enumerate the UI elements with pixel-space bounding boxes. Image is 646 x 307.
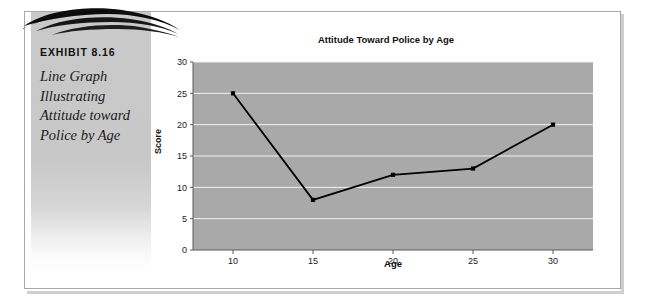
x-axis-tick-label: 25 bbox=[468, 256, 478, 266]
x-axis-tick-label: 10 bbox=[228, 256, 238, 266]
data-point-marker bbox=[471, 166, 475, 170]
data-point-marker bbox=[551, 123, 555, 127]
y-axis-tick-label: 5 bbox=[182, 214, 187, 224]
frame-shadow-bottom bbox=[27, 291, 624, 294]
y-axis-tick-label: 30 bbox=[177, 57, 187, 67]
data-point-marker bbox=[311, 198, 315, 202]
data-point-marker bbox=[231, 91, 235, 95]
x-axis-tick-label: 30 bbox=[548, 256, 558, 266]
x-axis-tick-label: 15 bbox=[308, 256, 318, 266]
y-axis-tick-label: 10 bbox=[177, 183, 187, 193]
frame-shadow-right bbox=[621, 14, 624, 293]
y-axis-tick-label: 25 bbox=[177, 89, 187, 99]
y-axis-tick-label: 0 bbox=[182, 245, 187, 255]
exhibit-caption-text: Line Graph Illustrating Attitude toward … bbox=[40, 67, 148, 145]
line-chart-plot: 0510152025301015202530 bbox=[160, 26, 612, 281]
x-axis-tick-label: 20 bbox=[388, 256, 398, 266]
data-point-marker bbox=[391, 173, 395, 177]
exhibit-number-label: EXHIBIT 8.16 bbox=[40, 46, 160, 58]
exhibit-figure: EXHIBIT 8.16 Line Graph Illustrating Att… bbox=[0, 0, 646, 307]
y-axis-tick-label: 20 bbox=[177, 120, 187, 130]
y-axis-tick-label: 15 bbox=[177, 151, 187, 161]
chart-container: Attitude Toward Police by Age Score Age … bbox=[160, 26, 612, 281]
